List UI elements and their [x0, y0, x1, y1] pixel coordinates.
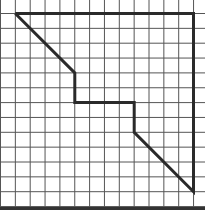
- grid-diagram: [0, 0, 205, 210]
- background: [0, 0, 205, 210]
